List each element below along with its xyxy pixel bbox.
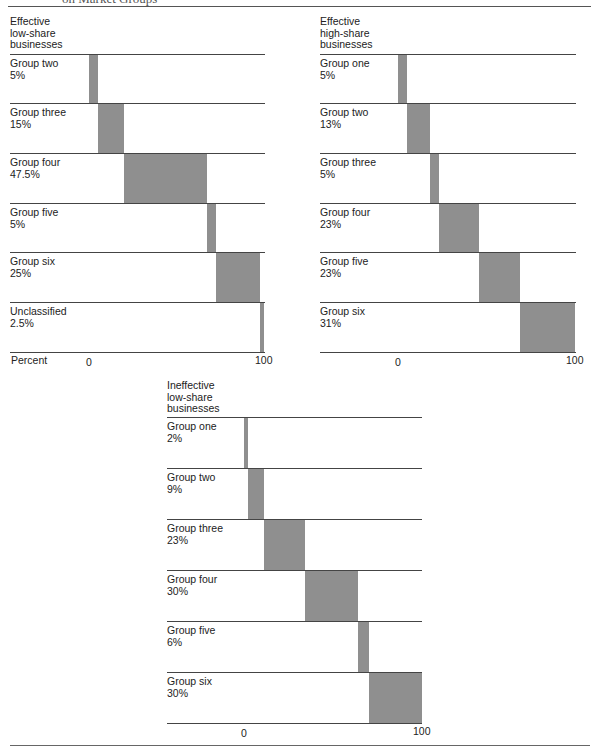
row-label: Group five5% [10,206,58,230]
group-percent: 31% [320,317,365,329]
row-label: Group two9% [167,471,215,495]
row-label: Group six25% [10,255,55,279]
group-percent: 15% [10,118,66,130]
row-divider [10,103,265,104]
group-percent: 6% [167,636,215,648]
bar-segment [260,303,264,352]
row-label: Group six31% [320,305,365,329]
axis-label: Percent [11,354,47,366]
group-name: Group five [10,206,58,218]
group-percent: 47.5% [10,168,60,180]
bar-segment [407,104,430,153]
group-name: Group four [320,206,370,218]
panel-title-line: businesses [320,39,373,51]
group-name: Group four [10,156,60,168]
bar-segment [520,303,575,352]
group-percent: 2.5% [10,317,67,329]
group-name: Group five [320,255,368,267]
tick-label-100: 100 [413,725,431,737]
axis-baseline [320,352,576,353]
bar-segment [98,104,124,153]
group-percent: 5% [320,69,370,81]
group-name: Group six [10,255,55,267]
panel-title-line: Effective [10,16,63,28]
panel-title: Effectivelow-sharebusinesses [10,16,63,51]
group-name: Group six [167,675,212,687]
bar-segment [248,469,264,519]
row-divider [320,54,576,55]
row-label: Group five23% [320,255,368,279]
panel-title: Ineffectivelow-sharebusinesses [167,380,220,415]
bar-segment [244,418,248,468]
group-name: Group three [320,156,376,168]
row-label: Group two5% [10,57,58,81]
group-name: Group three [167,522,223,534]
bar-segment [358,622,369,672]
group-percent: 13% [320,118,368,130]
row-label: Group four30% [167,573,217,597]
bar-segment [430,154,439,203]
row-label: Group six30% [167,675,212,699]
row-label: Group five6% [167,624,215,648]
row-label: Unclassified2.5% [10,305,67,329]
row-divider [10,302,265,303]
row-label: Group four47.5% [10,156,60,180]
bar-segment [439,204,480,252]
bar-segment [305,571,358,621]
bottom-rule [10,745,590,746]
row-label: Group one5% [320,57,370,81]
group-name: Group five [167,624,215,636]
tick-label-0: 0 [241,727,247,739]
group-percent: 5% [320,168,376,180]
row-divider [167,570,422,571]
group-percent: 23% [320,267,368,279]
group-name: Group one [167,420,217,432]
row-label: Group three15% [10,106,66,130]
group-percent: 5% [10,69,58,81]
group-name: Unclassified [10,305,67,317]
group-percent: 9% [167,483,215,495]
bar-segment [89,55,98,103]
row-divider [167,468,422,469]
bar-segment [369,673,422,723]
tick-label-0: 0 [395,356,401,368]
row-label: Group two13% [320,106,368,130]
group-name: Group two [320,106,368,118]
row-divider [167,417,422,418]
group-name: Group two [167,471,215,483]
group-percent: 25% [10,267,55,279]
top-rule [8,6,591,7]
row-label: Group three5% [320,156,376,180]
panel-title-line: businesses [167,403,220,415]
group-percent: 23% [167,534,223,546]
tick-label-0: 0 [86,356,92,368]
bar-segment [216,253,260,302]
panel-title-line: businesses [10,39,63,51]
group-name: Group three [10,106,66,118]
row-label: Group four23% [320,206,370,230]
panel-title: Effectivehigh-sharebusinesses [320,16,373,51]
row-divider [320,252,576,253]
bar-segment [124,154,207,203]
group-percent: 5% [10,218,58,230]
panel-title-line: Ineffective [167,380,220,392]
bar-segment [398,55,407,103]
group-percent: 30% [167,687,212,699]
group-name: Group four [167,573,217,585]
row-divider [10,54,265,55]
group-name: Group one [320,57,370,69]
row-label: Group three23% [167,522,223,546]
row-label: Group one2% [167,420,217,444]
tick-label-100: 100 [255,354,273,366]
bar-segment [264,520,305,570]
group-percent: 23% [320,218,370,230]
panel-title-line: Effective [320,16,373,28]
axis-baseline [167,723,422,724]
row-divider [10,203,265,204]
group-percent: 30% [167,585,217,597]
bar-segment [207,204,216,252]
row-divider [320,103,576,104]
group-name: Group two [10,57,58,69]
group-percent: 2% [167,432,217,444]
bar-segment [479,253,520,302]
